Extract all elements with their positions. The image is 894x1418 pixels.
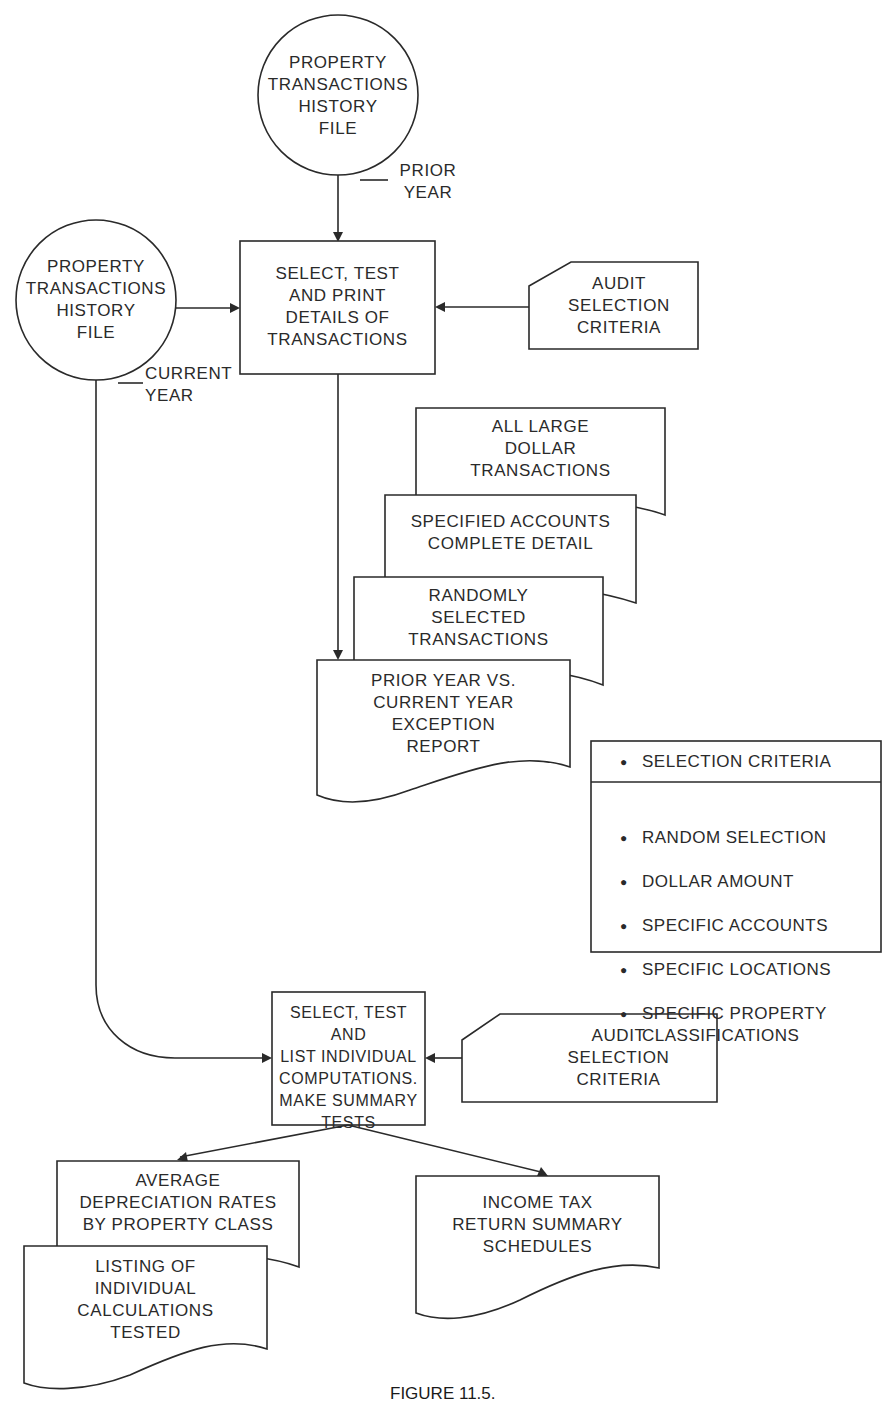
audit-criteria-1-label: AUDIT SELECTION CRITERIA: [540, 273, 698, 339]
doc-large-dollar-label: ALL LARGE DOLLAR TRANSACTIONS: [416, 416, 665, 482]
arrowhead-left: [435, 302, 445, 312]
history-file-current-label: PROPERTY TRANSACTIONS HISTORY FILE: [16, 256, 176, 344]
arrowhead-down: [333, 650, 343, 660]
criteria-legend-header-item: SELECTION CRITERIA: [620, 751, 831, 773]
arrowhead-left: [425, 1053, 435, 1063]
history-file-prior-label: PROPERTY TRANSACTIONS HISTORY FILE: [258, 52, 418, 140]
process-computations-label: SELECT, TEST AND LIST INDIVIDUAL COMPUTA…: [272, 1002, 425, 1134]
doc-exception-report-label: PRIOR YEAR VS. CURRENT YEAR EXCEPTION RE…: [317, 670, 570, 758]
criteria-item: RANDOM SELECTION: [620, 827, 831, 849]
current-year-annotation: CURRENT YEAR: [145, 363, 245, 407]
doc-income-tax-label: INCOME TAX RETURN SUMMARY SCHEDULES: [416, 1192, 659, 1258]
edge-current-to-computations: [96, 380, 266, 1058]
arrowhead-right: [262, 1053, 272, 1063]
prior-year-annotation: PRIOR YEAR: [388, 160, 468, 204]
doc-random-label: RANDOMLY SELECTED TRANSACTIONS: [354, 585, 603, 651]
audit-criteria-2-label: AUDIT SELECTION CRITERIA: [520, 1025, 717, 1091]
criteria-item: SPECIFIC LOCATIONS: [620, 959, 831, 981]
arrowhead-right: [230, 303, 240, 313]
figure-caption: FIGURE 11.5.: [390, 1384, 496, 1404]
criteria-item: DOLLAR AMOUNT: [620, 871, 831, 893]
doc-depreciation-label: AVERAGE DEPRECIATION RATES BY PROPERTY C…: [57, 1170, 299, 1236]
process-select-print-label: SELECT, TEST AND PRINT DETAILS OF TRANSA…: [240, 263, 435, 351]
criteria-item: SPECIFIC ACCOUNTS: [620, 915, 831, 937]
doc-calculations-label: LISTING OF INDIVIDUAL CALCULATIONS TESTE…: [24, 1256, 267, 1344]
doc-specified-accounts-label: SPECIFIED ACCOUNTS COMPLETE DETAIL: [385, 511, 636, 555]
criteria-legend-header: SELECTION CRITERIA: [620, 751, 831, 773]
